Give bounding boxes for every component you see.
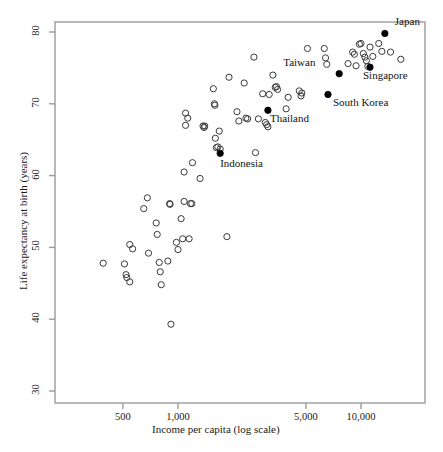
point-label-taiwan: Taiwan <box>283 56 315 68</box>
point-label-japan: Japan <box>395 15 420 27</box>
point-label-south-korea: South Korea <box>333 96 388 108</box>
y-tick-label: 60 <box>30 162 41 186</box>
y-tick-label: 80 <box>30 19 41 43</box>
point-label-singapore: Singapore <box>363 69 408 81</box>
x-tick-label: 10,000 <box>338 411 384 422</box>
y-axis-title: Life expectancy at birth (years) <box>17 152 29 290</box>
point-label-thailand: Thailand <box>270 112 309 124</box>
scatter-plot-figure: Life expectancy at birth (years) Income … <box>0 0 443 452</box>
y-tick-label: 70 <box>30 90 41 114</box>
axis-ticks <box>49 32 361 409</box>
x-tick-label: 1,000 <box>155 411 201 422</box>
point-label-indonesia: Indonesia <box>220 157 263 169</box>
y-tick-label: 30 <box>30 378 41 402</box>
plot-canvas <box>0 0 443 452</box>
y-tick-label: 40 <box>30 306 41 330</box>
data-points <box>100 30 404 327</box>
y-tick-label: 50 <box>30 234 41 258</box>
x-tick-label: 5,000 <box>283 411 329 422</box>
x-tick-label: 500 <box>100 411 146 422</box>
x-axis-title: Income per capita (log scale) <box>152 423 280 435</box>
